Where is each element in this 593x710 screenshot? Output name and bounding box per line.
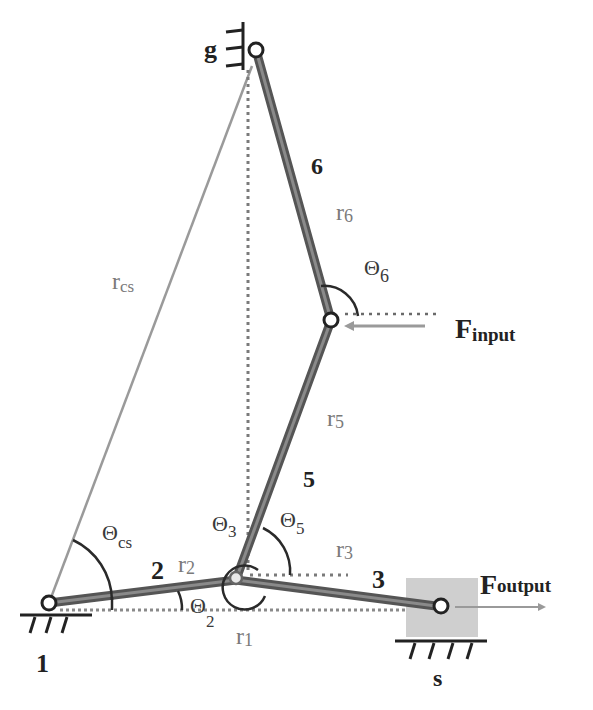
theta-3-arc: [223, 566, 265, 610]
label-link-2: 2: [151, 556, 164, 585]
label-link-6: 6: [311, 153, 323, 179]
node-g-joint: [249, 43, 263, 57]
label-g: g: [204, 35, 217, 64]
label-r1: r1: [236, 623, 253, 650]
theta-cs-arc: [73, 540, 112, 600]
label-theta-cs: Θcs: [102, 520, 132, 552]
link-6-core: [256, 50, 331, 320]
label-link-3: 3: [372, 565, 385, 594]
theta-5-arc: [263, 528, 290, 575]
f-input-arrow: [344, 321, 425, 331]
label-r3: r3: [336, 536, 353, 563]
input-joint: [324, 313, 338, 327]
label-f-output: Foutput: [480, 569, 552, 600]
label-1: 1: [36, 649, 49, 678]
slider-ground-icon: [395, 641, 487, 659]
label-theta-2: Θ2: [190, 593, 214, 631]
theta-2-arc: [178, 591, 182, 610]
label-rcs: rcs: [112, 268, 134, 296]
node1-ground-icon: [20, 615, 92, 633]
linkage-diagram: g 1 s 6 5 2 3 r6 r5 rcs r2 r3 r1 Θ6 Θcs …: [0, 0, 593, 710]
label-theta-6: Θ6: [364, 255, 389, 286]
label-r2: r2: [178, 551, 195, 578]
label-theta-3: Θ3: [212, 511, 236, 541]
label-link-5: 5: [303, 466, 315, 492]
label-r5: r5: [327, 405, 344, 432]
link-5-core: [238, 326, 329, 574]
label-f-input: Finput: [455, 313, 516, 345]
slider-joint: [434, 599, 448, 613]
node-1-joint: [42, 596, 56, 610]
link-2-core: [49, 580, 236, 603]
label-s: s: [433, 665, 442, 691]
center-joint: [230, 572, 242, 584]
label-theta-5: Θ5: [280, 507, 304, 538]
label-r6: r6: [336, 199, 353, 226]
g-ground-icon: [226, 22, 243, 70]
